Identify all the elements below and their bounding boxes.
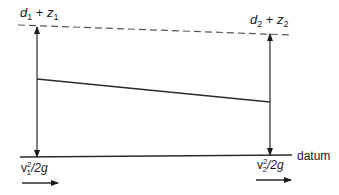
label-v1-squared-over-2g: v21/2g	[21, 160, 48, 177]
label-datum: datum	[297, 149, 330, 163]
hydraulic-grade-line	[37, 79, 270, 102]
label-v2-squared-over-2g: v22/2g	[257, 157, 284, 174]
datum-line	[20, 155, 292, 157]
label-d2-plus-z2: d2 + z2	[250, 12, 289, 29]
diagram-canvas: d1 + z1 d2 + z2 datum v21/2g v22/2g	[0, 0, 339, 195]
label-d1-plus-z1: d1 + z1	[20, 5, 59, 22]
